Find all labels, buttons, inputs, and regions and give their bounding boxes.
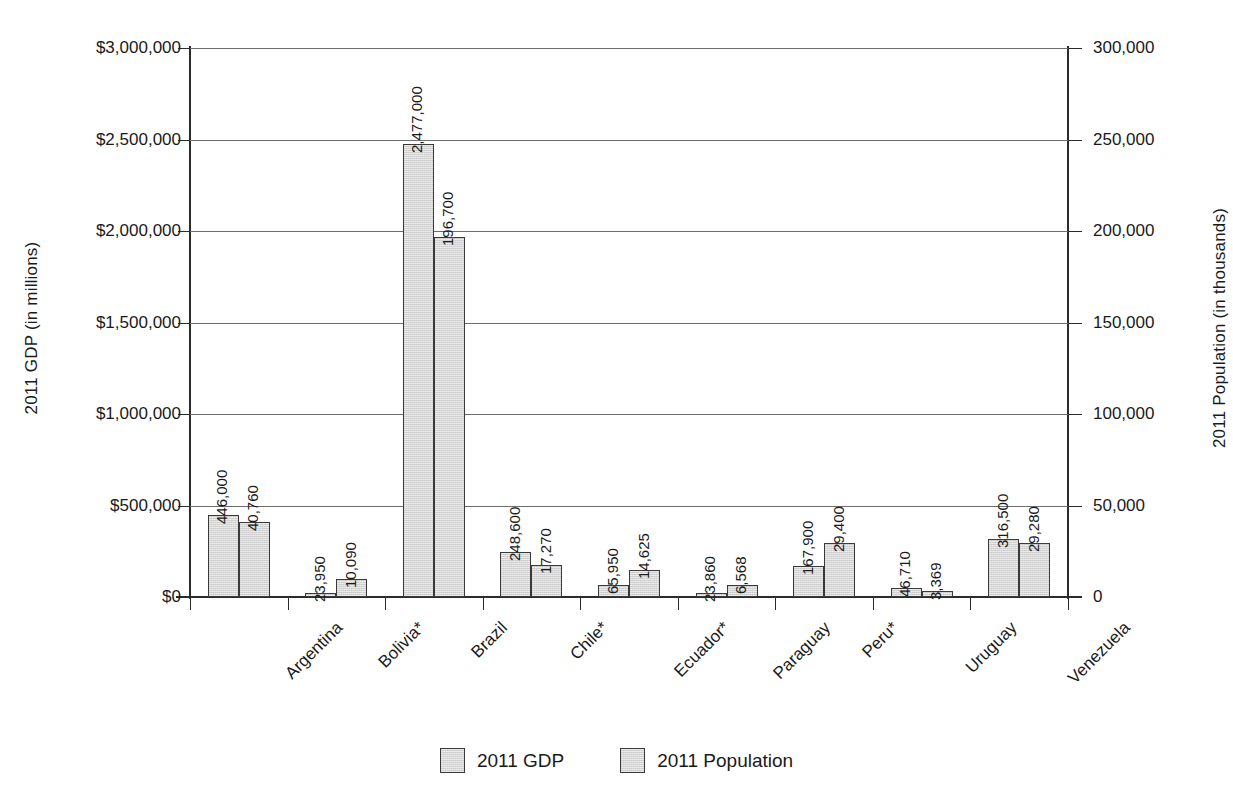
y-axis-left-tick-label: $500,000 [110,497,181,514]
bar-value-label: 3,369 [928,562,943,600]
x-axis-tick [970,597,971,610]
y-axis-left-tick-label: $1,500,000 [96,314,181,331]
bar-population[interactable] [239,522,270,597]
bar-value-label: 65,950 [605,548,620,594]
bar-value-label: 6,568 [733,556,748,594]
y-axis-right-tick-label: 250,000 [1093,131,1154,148]
x-axis-tick [678,597,679,610]
chart-legend: 2011 GDP2011 Population [0,748,1233,773]
x-axis-label-argentina: Argentina [281,618,347,684]
y-axis-right-tick [1069,414,1082,415]
x-axis-label-brazil: Brazil [467,618,511,662]
y-axis-right-tick-label: 200,000 [1093,222,1154,239]
y-axis-right-tick-label: 300,000 [1093,39,1154,56]
bar-value-label: 167,900 [800,521,815,575]
y-axis-right-tick-label: 150,000 [1093,314,1154,331]
y-axis-left-tick-label: $1,000,000 [96,405,181,422]
x-axis-label-chile: Chile* [566,618,612,664]
bar-value-label: 23,950 [312,556,327,602]
bar-value-label: 2,477,000 [409,86,424,153]
x-axis-tick [1068,597,1069,610]
x-axis-label-ecuador: Ecuador* [670,618,734,682]
bar-value-label: 17,270 [538,529,553,575]
bar-gdp[interactable] [403,144,434,597]
y-axis-left-title: 2011 GDP (in millions) [22,188,42,468]
bar-value-label: 196,700 [440,192,455,246]
y-axis-right-tick [1069,231,1082,232]
x-axis-tick [288,597,289,610]
y-axis-left-tick-label: $2,500,000 [96,131,181,148]
x-axis-tick [483,597,484,610]
y-axis-right-tick [1069,48,1082,49]
y-axis-right-title: 2011 Population (in thousands) [1210,178,1230,478]
y-axis-right-tick [1069,597,1082,598]
y-axis-left-tick-label: $3,000,000 [96,39,181,56]
bar-value-label: 316,500 [995,494,1010,548]
y-axis-right-tick [1069,140,1082,141]
legend-swatch-icon [620,748,645,773]
y-axis-left-tick-label: $2,000,000 [96,222,181,239]
bar-value-label: 29,280 [1026,507,1041,553]
y-axis-right-tick [1069,323,1082,324]
x-axis-tick [775,597,776,610]
bar-value-label: 46,710 [897,552,912,598]
x-axis-tick [190,597,191,610]
bar-value-label: 29,400 [831,506,846,552]
legend-item[interactable]: 2011 Population [620,748,793,773]
x-axis-label-paraguay: Paraguay [769,618,835,684]
y-axis-right-tick [1069,506,1082,507]
legend-label: 2011 Population [657,750,793,772]
bar-gdp[interactable] [208,515,239,597]
legend-swatch-icon [440,748,465,773]
y-axis-right-tick-label: 100,000 [1093,405,1154,422]
bar-value-label: 446,000 [214,470,229,524]
plot-area: 446,00040,76023,95010,0902,477,000196,70… [190,48,1068,597]
y-axis-left-tick-label: $0 [162,588,181,605]
bar-population[interactable] [434,237,465,597]
bar-value-label: 23,860 [702,556,717,602]
bar-value-label: 10,090 [343,542,358,588]
legend-item[interactable]: 2011 GDP [440,748,564,773]
x-axis-label-bolivia: Bolivia* [375,618,429,672]
y-axis-right-tick-label: 50,000 [1093,497,1145,514]
x-axis-label-peru: Peru* [858,618,902,662]
bar-value-label: 40,760 [245,486,260,532]
y-axis-right-tick-label: 0 [1093,588,1102,605]
x-axis-label-uruguay: Uruguay [962,618,1022,678]
legend-label: 2011 GDP [477,750,564,772]
bar-value-label: 14,625 [636,533,651,579]
x-axis-tick [385,597,386,610]
bar-value-label: 248,600 [507,506,522,560]
x-axis-tick [580,597,581,610]
x-axis-label-venezuela: Venezuela [1064,618,1134,688]
x-axis-tick [873,597,874,610]
chart-container: 2011 GDP (in millions) 2011 Population (… [0,0,1233,802]
